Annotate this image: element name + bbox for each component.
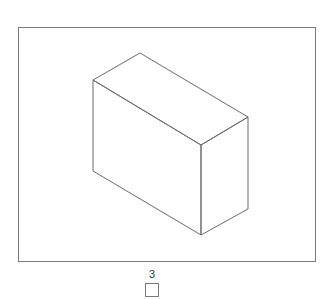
- isometric-box: [93, 53, 248, 235]
- option-label: 3: [140, 268, 164, 280]
- box-side-face: [201, 117, 248, 235]
- option-checkbox[interactable]: [145, 283, 159, 297]
- box-front-face: [93, 80, 201, 235]
- diagram-canvas: [0, 0, 332, 299]
- figure-frame: [19, 28, 316, 262]
